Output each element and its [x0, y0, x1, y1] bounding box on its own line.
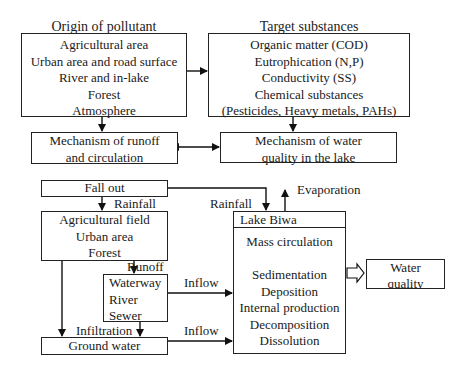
runoff-label: Runoff: [127, 259, 164, 275]
land-item: Agricultural field: [59, 212, 150, 229]
origin-item: Agricultural area: [60, 37, 148, 54]
runoff-mechanism-line: Mechanism of runoff: [49, 133, 159, 150]
hollow-arrow-lake-to-water-quality: [347, 264, 364, 282]
origin-item: Urban area and road surface: [31, 54, 178, 71]
target-item: Chemical substances: [255, 87, 364, 104]
origin-box: Agricultural area Urban area and road su…: [21, 33, 187, 117]
lake-subtitle: Mass circulation: [246, 234, 332, 251]
rainfall-label-left: Rainfall: [114, 196, 156, 212]
origin-item: Forest: [88, 87, 121, 104]
lake-mechanism-line: Mechanism of water: [255, 133, 362, 150]
water-quality-line: quality: [387, 276, 423, 289]
target-item: (Pesticides, Heavy metals, PAHs): [222, 103, 397, 120]
inflow-label-lower: Inflow: [184, 323, 219, 339]
groundwater-label: Ground water: [69, 338, 141, 355]
land-item: Forest: [88, 245, 121, 262]
land-use-box: Agricultural field Urban area Forest: [41, 211, 168, 261]
runoff-mechanism-line: and circulation: [66, 150, 144, 167]
lake-biwa-box: Lake Biwa Mass circulation Sedimentation…: [233, 211, 346, 354]
target-box: Organic matter (COD) Eutrophication (N,P…: [208, 33, 410, 117]
lake-process: Internal production: [240, 300, 340, 317]
groundwater-box: Ground water: [41, 337, 168, 355]
waterway-box: Waterway River Sewer: [103, 274, 168, 322]
waterway-item: Waterway: [109, 275, 161, 292]
waterway-item: River: [109, 292, 138, 309]
waterway-item: Sewer: [109, 308, 142, 325]
rainfall-label-right: Rainfall: [210, 196, 252, 212]
fallout-label: Fall out: [84, 180, 124, 197]
runoff-mechanism-box: Mechanism of runoff and circulation: [31, 132, 178, 164]
target-item: Eutrophication (N,P): [254, 54, 363, 71]
inflow-label-upper: Inflow: [184, 275, 219, 291]
target-item: Organic matter (COD): [250, 37, 367, 54]
origin-item: Atmosphere: [72, 103, 136, 120]
water-quality-box: Water quality: [366, 259, 445, 289]
lake-process: Sedimentation: [252, 267, 327, 284]
land-item: Urban area: [76, 229, 133, 246]
water-quality-line: Water: [390, 260, 421, 276]
lake-process: Dissolution: [260, 333, 320, 350]
lake-process: Decomposition: [250, 317, 329, 334]
lake-title: Lake Biwa: [234, 212, 345, 228]
evaporation-label: Evaporation: [297, 182, 361, 198]
target-item: Conductivity (SS): [262, 70, 356, 87]
lake-mechanism-line: quality in the lake: [262, 150, 356, 167]
lake-mechanism-box: Mechanism of water quality in the lake: [220, 132, 397, 163]
lake-process: Deposition: [261, 284, 318, 301]
fallout-box: Fall out: [41, 180, 168, 197]
origin-item: River and in-lake: [59, 70, 149, 87]
